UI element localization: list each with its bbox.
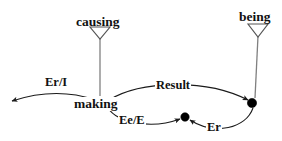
node-label-causing: causing <box>76 15 120 29</box>
edge-label-ee-e: Ee/E <box>118 114 146 127</box>
edge-label-er: Er <box>206 121 222 134</box>
node-mid-dot <box>181 113 189 121</box>
node-result-dot <box>247 98 256 107</box>
being-triangle-icon <box>248 24 268 37</box>
node-label-being: being <box>239 10 271 24</box>
node-label-making: making <box>73 97 119 111</box>
diagram-canvas: causing being making Er/I Result Ee/E Er <box>0 0 282 141</box>
stem-being <box>255 36 258 98</box>
edge-label-result: Result <box>155 79 191 92</box>
edge-label-er-i: Er/I <box>44 76 68 89</box>
